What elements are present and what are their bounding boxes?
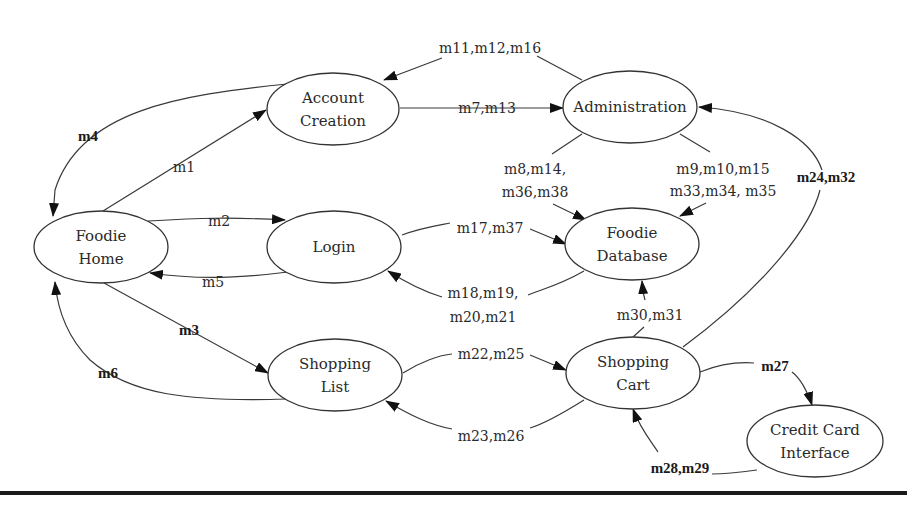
edge-shopping-cart-to-shopping-list [386, 400, 584, 429]
node-ellipse [268, 339, 402, 411]
node-ellipse [747, 405, 883, 477]
edge-label: m18,m19, [447, 285, 518, 301]
node-label: Shopping [597, 353, 670, 371]
node-label: Foodie [607, 224, 658, 242]
node-label: Home [78, 250, 123, 268]
edge-label: m7,m13 [458, 100, 516, 116]
edge-line [55, 282, 286, 400]
node-ellipse [565, 208, 699, 280]
node-label: Cart [616, 376, 650, 394]
node-label: Administration [572, 98, 687, 116]
edge-label: m8,m14, [504, 161, 566, 177]
edge-label: m6 [98, 365, 118, 381]
node-label: Credit Card [770, 421, 860, 439]
node-credit-card-interface: Credit CardInterface [747, 405, 883, 477]
edge-label: m36,m38 [502, 184, 569, 200]
edge-label: m24,m32 [797, 169, 856, 185]
edge-label: m2 [208, 213, 230, 229]
node-label: List [321, 378, 349, 396]
edge-label: m27 [761, 358, 789, 374]
bottom-rule [0, 491, 907, 495]
node-login: Login [267, 211, 401, 283]
node-label: Shopping [299, 355, 372, 373]
node-shopping-cart: ShoppingCart [566, 337, 700, 409]
edge-line [700, 363, 812, 405]
edge-label: m9,m10,m15 [676, 161, 769, 177]
node-label: Interface [780, 444, 850, 462]
edge-administration-to-foodie-database [552, 134, 586, 220]
node-label: Account [301, 89, 364, 107]
edge-label: m22,m25 [458, 346, 525, 362]
edge-line [552, 134, 586, 220]
edge-label: m3 [179, 322, 199, 338]
edge-label: m11,m12,m16 [439, 40, 541, 56]
node-administration: Administration [563, 71, 697, 143]
edge-label: m20,m21 [450, 309, 517, 325]
edge-line [386, 400, 584, 429]
edge-line [53, 84, 287, 216]
node-ellipse [566, 337, 700, 409]
edge-labels-layer: m1m2m3m4m5m6m7,m13m11,m12,m16m8,m14,m36,… [78, 40, 855, 476]
edge-line [683, 107, 822, 347]
edge-line [384, 56, 582, 80]
edge-administration-to-account-creation [384, 56, 582, 80]
edge-label: m4 [78, 128, 98, 144]
edge-label: m30,m31 [617, 307, 684, 323]
edge-label: m5 [202, 274, 224, 290]
node-label: Login [312, 238, 355, 256]
node-label: Database [596, 247, 667, 265]
edge-label: m23,m26 [458, 428, 525, 444]
edge-shopping-cart-to-administration [683, 107, 822, 347]
node-shopping-list: ShoppingList [268, 339, 402, 411]
node-ellipse [267, 73, 399, 145]
edge-label: m28,m29 [651, 460, 710, 476]
state-diagram: AccountCreationAdministrationFoodieHomeL… [0, 0, 907, 512]
edge-account-creation-to-foodie-home [53, 84, 287, 216]
edge-shopping-cart-to-credit-card-interface [700, 363, 812, 405]
edge-label: m17,m37 [457, 220, 524, 236]
node-foodie-home: FoodieHome [34, 211, 168, 283]
edges-layer [53, 56, 822, 474]
node-label: Foodie [76, 227, 127, 245]
edge-label: m33,m34, m35 [670, 183, 777, 199]
node-foodie-database: FoodieDatabase [565, 208, 699, 280]
edge-label: m1 [173, 159, 195, 175]
node-account-creation: AccountCreation [267, 73, 399, 145]
node-ellipse [34, 211, 168, 283]
node-label: Creation [300, 112, 366, 130]
edge-shopping-list-to-foodie-home [55, 282, 286, 400]
